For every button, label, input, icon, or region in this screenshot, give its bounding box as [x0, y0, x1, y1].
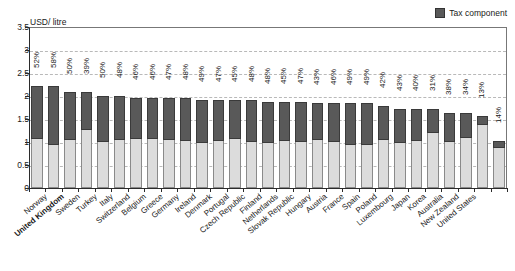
bar-segment-ex-tax [295, 142, 307, 188]
bar-segment-ex-tax [394, 143, 406, 188]
bar-segment-tax [328, 103, 340, 142]
bar-column[interactable] [444, 113, 456, 188]
bar-segment-tax [147, 98, 159, 139]
bar-segment-ex-tax [345, 145, 357, 188]
bar-segment-tax [460, 113, 472, 138]
bar-segment-tax [312, 103, 324, 139]
bar-segment-tax [163, 98, 175, 140]
bar-segment-ex-tax [378, 140, 390, 188]
bar-segment-tax [114, 96, 126, 140]
bar-segment-tax [262, 102, 274, 143]
bar-segment-ex-tax [312, 140, 324, 188]
bar-segment-ex-tax [460, 138, 472, 188]
bar-segment-ex-tax [97, 142, 109, 188]
y-tick-mark [25, 73, 29, 74]
y-tick-mark [25, 119, 29, 120]
bar-column[interactable] [460, 113, 472, 188]
bar-segment-tax [246, 100, 258, 142]
y-tick-mark [25, 27, 29, 28]
bar-column[interactable] [477, 116, 489, 188]
bar-segment-tax [81, 92, 93, 129]
bar-column[interactable] [493, 141, 505, 188]
y-tick-mark [25, 165, 29, 166]
bar-column[interactable] [345, 103, 357, 188]
bar-segment-ex-tax [64, 140, 76, 188]
bar-column[interactable] [246, 100, 258, 188]
bar-column[interactable] [114, 96, 126, 188]
bar-segment-ex-tax [147, 139, 159, 188]
bar-column[interactable] [295, 102, 307, 188]
bar-segment-tax [180, 98, 192, 141]
bar-segment-ex-tax [81, 130, 93, 188]
bar-column[interactable] [213, 100, 225, 188]
bar-segment-tax [394, 109, 406, 143]
bar-segment-ex-tax [246, 142, 258, 188]
bar-segment-tax [196, 100, 208, 143]
bar-column[interactable] [411, 109, 423, 188]
bar-segment-tax [444, 113, 456, 142]
legend-label-tax-component: Tax component [449, 8, 507, 18]
bar-segment-ex-tax [427, 133, 439, 188]
bar-segment-tax [229, 100, 241, 140]
bar-segment-tax [130, 98, 142, 139]
bar-segment-ex-tax [114, 140, 126, 188]
bar-segment-tax [64, 92, 76, 140]
x-tick-mark [507, 188, 508, 192]
bar-segment-tax [279, 102, 291, 141]
bar-column[interactable] [312, 103, 324, 188]
chart-title-cropped [55, 0, 385, 2]
bars-layer: 52%58%50%39%50%48%46%46%47%48%49%47%45%4… [29, 27, 507, 188]
bar-column[interactable] [130, 98, 142, 188]
bar-segment-ex-tax [493, 148, 505, 188]
y-tick-mark [25, 96, 29, 97]
bar-segment-ex-tax [477, 125, 489, 188]
bar-segment-tax [213, 100, 225, 141]
bar-segment-ex-tax [361, 145, 373, 188]
bar-segment-tax [345, 103, 357, 144]
bar-column[interactable] [262, 102, 274, 188]
bar-segment-tax [48, 86, 60, 145]
bar-column[interactable] [64, 92, 76, 188]
bar-column[interactable] [147, 98, 159, 188]
bar-segment-ex-tax [31, 139, 43, 188]
bar-segment-ex-tax [163, 140, 175, 188]
bar-segment-tax [97, 96, 109, 142]
legend-swatch-tax-component [435, 8, 445, 18]
bar-segment-ex-tax [213, 141, 225, 188]
bar-column[interactable] [394, 109, 406, 188]
bar-column[interactable] [97, 96, 109, 188]
bar-column[interactable] [328, 103, 340, 188]
bar-segment-tax [411, 109, 423, 141]
y-tick-mark [25, 142, 29, 143]
bar-column[interactable] [427, 109, 439, 188]
y-tick-mark [25, 50, 29, 51]
bar-segment-ex-tax [328, 142, 340, 188]
bar-column[interactable] [378, 106, 390, 188]
fuel-price-tax-chart: Tax component USD/ litre 52%58%50%39%50%… [0, 0, 515, 271]
bar-column[interactable] [81, 92, 93, 188]
bar-segment-ex-tax [262, 143, 274, 188]
bar-column[interactable] [229, 100, 241, 188]
x-axis-labels: NorwayUnited KingdomSwedenTurkeyItalySwi… [29, 192, 507, 271]
bar-segment-tax [295, 102, 307, 142]
bar-segment-tax [31, 86, 43, 139]
chart-legend: Tax component [435, 8, 507, 18]
bar-segment-ex-tax [180, 141, 192, 188]
bar-column[interactable] [163, 98, 175, 188]
bar-column[interactable] [48, 86, 60, 188]
bar-segment-ex-tax [196, 143, 208, 188]
bar-segment-tax [477, 116, 489, 125]
bar-segment-tax [378, 106, 390, 141]
bar-segment-ex-tax [444, 142, 456, 188]
bar-column[interactable] [180, 98, 192, 188]
y-axis-title: USD/ litre [30, 17, 66, 27]
bar-column[interactable] [31, 86, 43, 188]
bar-segment-ex-tax [229, 139, 241, 188]
bar-column[interactable] [196, 100, 208, 188]
bar-column[interactable] [279, 102, 291, 188]
bar-segment-tax [427, 109, 439, 133]
bar-column[interactable] [361, 103, 373, 188]
bar-segment-ex-tax [279, 141, 291, 188]
bar-segment-tax [361, 103, 373, 144]
bar-segment-ex-tax [411, 141, 423, 188]
